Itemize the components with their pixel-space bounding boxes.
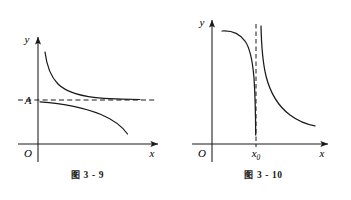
asymptote-value-label-x0: x0: [251, 147, 261, 162]
figure-3-10-graphic: y x O x0: [176, 0, 351, 175]
y-axis-label: y: [199, 16, 205, 28]
y-axis-label: y: [24, 33, 30, 45]
figure-caption-prefix: 图: [244, 170, 254, 180]
figure-caption-prefix: 图: [71, 170, 81, 180]
origin-label: O: [198, 147, 206, 159]
figure-caption-number: 3 - 9: [84, 170, 104, 180]
x-axis-label: x: [319, 147, 325, 159]
figure-3-9-graphic: y x O A: [0, 0, 175, 175]
figure-sheet: y x O A 图 3 - 9: [0, 0, 351, 200]
figure-panel-3-10: y x O x0 图 3 - 10: [176, 0, 351, 200]
asymptote-value-label-A: A: [24, 94, 32, 106]
origin-label: O: [24, 147, 32, 159]
curve-upper-branch: [45, 52, 140, 100]
curve-left-branch: [222, 31, 256, 135]
x-axis-label: x: [149, 147, 155, 159]
curve-lower-branch: [40, 102, 128, 134]
figure-caption-number: 3 - 10: [257, 170, 283, 180]
figure-panel-3-9: y x O A 图 3 - 9: [0, 0, 175, 200]
curve-right-branch: [261, 26, 315, 126]
x0-subscript: 0: [257, 153, 261, 162]
figure-caption-3-10: 图 3 - 10: [176, 168, 351, 181]
figure-caption-3-9: 图 3 - 9: [0, 168, 175, 181]
